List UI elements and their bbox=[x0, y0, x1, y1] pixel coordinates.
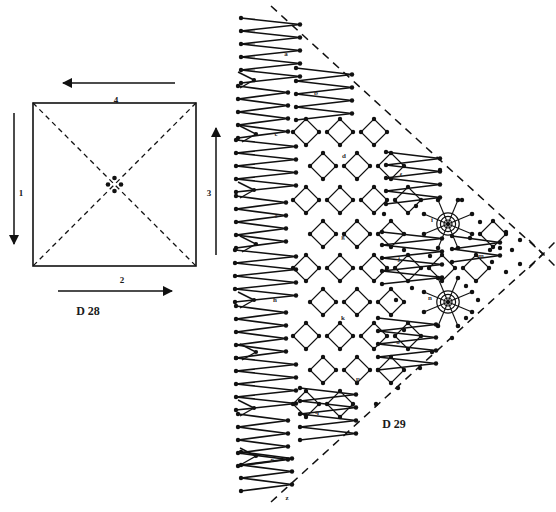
thread-line bbox=[235, 263, 296, 270]
thread-line bbox=[238, 182, 254, 190]
pricking-dot bbox=[414, 204, 418, 208]
pricking-dot bbox=[233, 287, 237, 291]
pricking-dot bbox=[419, 198, 423, 202]
pricking-dot bbox=[376, 300, 380, 304]
thread-line bbox=[236, 319, 286, 326]
thread-line bbox=[327, 323, 340, 336]
pricking-dot bbox=[291, 334, 295, 338]
thread-line bbox=[378, 370, 391, 383]
motif-label-e: e bbox=[274, 212, 277, 220]
pricking-dot bbox=[385, 334, 389, 338]
pricking-dot bbox=[234, 330, 238, 334]
pricking-dot bbox=[376, 368, 380, 372]
pricking-dot bbox=[464, 316, 468, 320]
thread-line bbox=[357, 153, 370, 166]
thread-line bbox=[463, 255, 476, 268]
outline-top-edge bbox=[271, 6, 543, 254]
arrow-label-4: 4 bbox=[114, 95, 119, 105]
pricking-dot bbox=[372, 143, 376, 147]
pricking-dot bbox=[368, 300, 372, 304]
motif-label-r: r bbox=[270, 456, 273, 464]
motif-label-g: g bbox=[341, 233, 345, 241]
pricking-dot bbox=[239, 463, 243, 467]
thread-line bbox=[296, 101, 352, 108]
pricking-dot bbox=[342, 368, 346, 372]
thread-line bbox=[241, 478, 292, 485]
pricking-dot bbox=[359, 266, 363, 270]
arrow-label-2: 2 bbox=[120, 275, 125, 285]
thread-line bbox=[236, 229, 286, 236]
pricking-dot bbox=[284, 226, 288, 230]
thread-line bbox=[357, 166, 370, 179]
thread-line bbox=[310, 357, 323, 370]
thread-line bbox=[238, 86, 288, 93]
pricking-dot bbox=[286, 457, 290, 461]
pricking-dot bbox=[478, 220, 482, 224]
thread-line bbox=[382, 239, 442, 246]
thread-line bbox=[361, 255, 374, 268]
thread-line bbox=[323, 153, 336, 166]
thread-line bbox=[236, 179, 296, 186]
pricking-dot bbox=[234, 395, 238, 399]
pricking-dot bbox=[389, 287, 393, 291]
pricking-dot bbox=[376, 355, 380, 359]
thread-line bbox=[236, 166, 296, 173]
pricking-dot bbox=[317, 334, 321, 338]
thread-line bbox=[241, 44, 300, 51]
thread-line bbox=[344, 289, 357, 302]
pricking-dot bbox=[368, 368, 372, 372]
motif-label-c: c bbox=[274, 130, 277, 138]
pricking-dot bbox=[434, 335, 438, 339]
thread-line bbox=[452, 236, 500, 243]
thread-line bbox=[235, 257, 296, 264]
pricking-dot bbox=[456, 246, 461, 251]
pricking-dot bbox=[518, 262, 522, 266]
thread-line bbox=[238, 440, 288, 447]
pricking-dot bbox=[436, 246, 441, 251]
pricking-dot bbox=[350, 85, 354, 89]
motif-label-j: j bbox=[397, 255, 400, 263]
pricking-dot bbox=[422, 310, 427, 315]
pricking-dot bbox=[286, 116, 290, 120]
pricking-dot bbox=[304, 389, 308, 393]
pricking-dot bbox=[456, 198, 461, 203]
pricking-dot bbox=[234, 304, 238, 308]
pricking-dot bbox=[384, 163, 388, 167]
pricking-dot bbox=[119, 182, 124, 187]
pricking-dot bbox=[384, 176, 388, 180]
motif-label-o: o bbox=[396, 338, 400, 346]
pricking-dot bbox=[359, 130, 363, 134]
pricking-dot bbox=[338, 253, 342, 257]
pricking-dot bbox=[440, 262, 444, 266]
thread-line bbox=[306, 187, 319, 200]
pricking-dot bbox=[304, 347, 308, 351]
pricking-dot bbox=[254, 350, 258, 354]
figure-caption-d29: D 29 bbox=[382, 417, 406, 431]
pricking-dot bbox=[351, 266, 355, 270]
motif-letter-labels: abcdefghijkmnopqrz bbox=[270, 50, 484, 502]
pricking-dot bbox=[460, 198, 464, 202]
pricking-dot bbox=[440, 253, 444, 257]
pricking-dot bbox=[298, 48, 302, 52]
pricking-dot bbox=[286, 103, 290, 107]
thread-line bbox=[235, 283, 296, 290]
pricking-dot bbox=[389, 151, 393, 155]
pricking-dot bbox=[338, 211, 342, 215]
thread-line bbox=[310, 153, 323, 166]
pricking-dot bbox=[380, 269, 384, 273]
pricking-dot bbox=[389, 381, 393, 385]
pricking-dot bbox=[298, 438, 302, 442]
pricking-dot bbox=[428, 254, 432, 258]
thread-line bbox=[241, 70, 300, 77]
thread-line bbox=[236, 391, 296, 398]
thread-line bbox=[327, 119, 340, 132]
thread-line bbox=[382, 232, 442, 239]
thread-line bbox=[238, 292, 254, 300]
thread-line bbox=[357, 357, 370, 370]
pricking-dot bbox=[372, 321, 376, 325]
motif-label-z: z bbox=[285, 494, 288, 502]
thread-line bbox=[340, 255, 353, 268]
pricking-dot bbox=[406, 347, 410, 351]
pricking-dot bbox=[389, 177, 393, 181]
thread-line bbox=[323, 357, 336, 370]
